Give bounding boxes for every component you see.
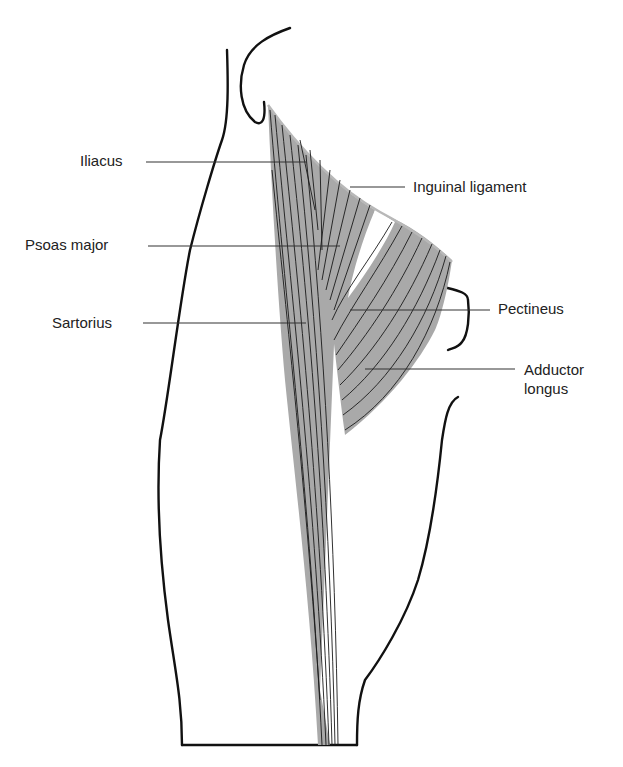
label-adductor-longus-line1: Adductor bbox=[524, 361, 584, 378]
label-iliacus: Iliacus bbox=[80, 152, 123, 169]
medial-thigh-outline bbox=[357, 397, 458, 745]
label-inguinal-ligament: Inguinal ligament bbox=[413, 178, 526, 195]
label-psoas-major: Psoas major bbox=[25, 236, 108, 253]
label-adductor-longus-line2: longus bbox=[524, 380, 568, 397]
iliac-crest-outline bbox=[241, 28, 290, 123]
label-pectineus: Pectineus bbox=[498, 300, 564, 317]
lateral-thigh-outline bbox=[158, 50, 227, 745]
label-sartorius: Sartorius bbox=[52, 314, 112, 331]
